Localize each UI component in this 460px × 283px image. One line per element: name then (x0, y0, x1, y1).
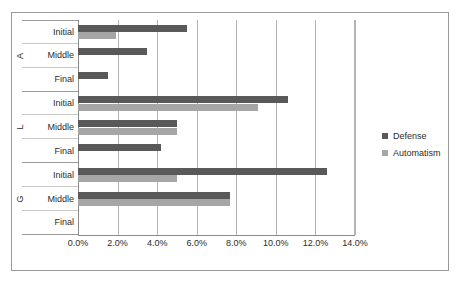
bar-defense (78, 168, 327, 175)
value-axis-line (78, 235, 355, 236)
bar-defense (78, 25, 187, 32)
category-label: Initial (22, 163, 79, 187)
category-label: Final (22, 211, 79, 235)
bar-defense (78, 192, 230, 199)
bar-row (78, 187, 355, 211)
category-label: Final (22, 139, 79, 163)
bar-defense (78, 72, 108, 79)
value-tick-label: 12.0% (303, 238, 329, 248)
bar-defense (78, 96, 288, 103)
bar-row (78, 68, 355, 92)
bar-automatism (78, 175, 177, 182)
value-tick-label: 0.0% (68, 238, 89, 248)
category-axis: Initial Middle Final Initial Middle Fina… (22, 20, 79, 235)
chart-frame: A L G Initial Middle Final Initial Middl… (11, 12, 449, 271)
value-axis-labels: 0.0%2.0%4.0%6.0%8.0%10.0%12.0%14.0% (78, 238, 355, 252)
bar-automatism (78, 199, 230, 206)
bar-row (78, 116, 355, 140)
category-label: Final (22, 68, 79, 92)
category-label: Middle (22, 116, 79, 140)
value-tick-label: 8.0% (226, 238, 247, 248)
bar-defense (78, 48, 147, 55)
legend-item-automatism: Automatism (382, 148, 460, 158)
category-label: Middle (22, 44, 79, 68)
bar-row (78, 92, 355, 116)
bar-row (78, 211, 355, 235)
legend-label: Defense (393, 131, 427, 141)
category-label: Initial (22, 20, 79, 44)
legend-label: Automatism (393, 148, 441, 158)
bar-row (78, 140, 355, 164)
legend-item-defense: Defense (382, 131, 460, 141)
bar-automatism (78, 104, 258, 111)
value-tick-label: 4.0% (147, 238, 168, 248)
value-tick-label: 6.0% (186, 238, 207, 248)
bar-automatism (78, 32, 116, 39)
value-tick-label: 2.0% (107, 238, 128, 248)
bar-row (78, 163, 355, 187)
category-label: Middle (22, 187, 79, 211)
legend-swatch-icon (382, 133, 388, 139)
gridline (355, 20, 356, 235)
bar-row (78, 20, 355, 44)
bar-defense (78, 120, 177, 127)
value-tick-label: 14.0% (342, 238, 368, 248)
category-label: Initial (22, 92, 79, 116)
value-tick-label: 10.0% (263, 238, 289, 248)
bar-row (78, 44, 355, 68)
bar-defense (78, 144, 161, 151)
legend-swatch-icon (382, 150, 388, 156)
legend: Defense Automatism (382, 131, 460, 165)
bar-automatism (78, 128, 177, 135)
